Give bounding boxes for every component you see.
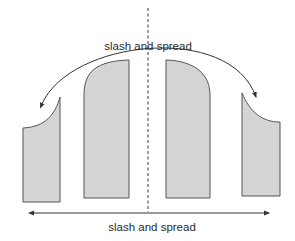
bottom-annotation-label: slash and spread xyxy=(108,221,196,233)
left-side-piece xyxy=(23,97,60,202)
slash-and-spread-diagram xyxy=(0,0,295,241)
center-left-piece xyxy=(84,60,129,198)
center-right-piece xyxy=(166,60,210,198)
right-side-piece xyxy=(242,93,280,196)
top-arc-arrow xyxy=(42,48,256,104)
top-annotation-label: slash and spread xyxy=(104,40,192,52)
